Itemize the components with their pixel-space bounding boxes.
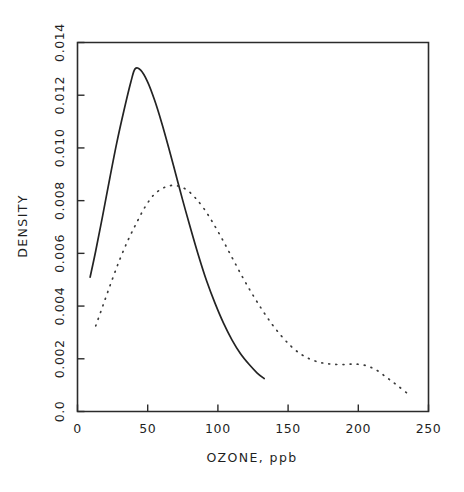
x-tick-label: 0 [73, 421, 82, 436]
x-tick-label: 50 [139, 421, 156, 436]
y-tick-label: 0.014 [52, 23, 67, 62]
y-axis-title: DENSITY [15, 194, 30, 258]
y-tick-label: 0.0 [52, 401, 67, 423]
y-tick-label: 0.008 [52, 181, 67, 220]
chart-background [0, 0, 464, 492]
chart-canvas: 050100150200250 0.00.0020.0040.0060.0080… [0, 0, 464, 492]
x-tick-label: 150 [275, 421, 301, 436]
density-plot-figure: 050100150200250 0.00.0020.0040.0060.0080… [0, 0, 464, 492]
y-tick-label: 0.002 [52, 339, 67, 378]
x-tick-label: 100 [205, 421, 231, 436]
y-tick-label: 0.010 [52, 129, 67, 168]
y-tick-label: 0.004 [52, 287, 67, 326]
x-axis-title: OZONE, ppb [206, 450, 297, 465]
y-tick-label: 0.006 [52, 234, 67, 273]
x-tick-label: 200 [345, 421, 371, 436]
y-tick-label: 0.012 [52, 76, 67, 115]
x-tick-label: 250 [416, 421, 442, 436]
